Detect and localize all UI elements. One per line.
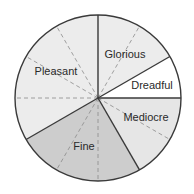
slice-label-dreadful: Dreadful [131, 79, 173, 91]
slice-label-glorious: Glorious [105, 48, 146, 60]
pie-chart: Glorious Dreadful Mediocre Fine Pleasant [0, 0, 194, 194]
slice-label-mediocre: Mediocre [123, 111, 168, 123]
slice-label-pleasant: Pleasant [35, 65, 78, 77]
slice-label-fine: Fine [73, 140, 94, 152]
